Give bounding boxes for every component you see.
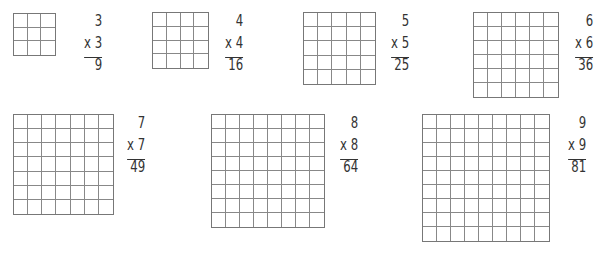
grid-cell bbox=[28, 115, 42, 129]
grid-cell bbox=[56, 129, 70, 143]
grid-cell bbox=[502, 69, 516, 83]
grid-cell bbox=[42, 200, 56, 214]
grid-cell bbox=[465, 185, 479, 199]
grid-cell bbox=[296, 115, 310, 129]
grid-cell bbox=[437, 115, 451, 129]
grid-cell bbox=[226, 185, 240, 199]
grid-cell bbox=[310, 115, 324, 129]
grid-cell bbox=[451, 157, 465, 171]
grid-cell bbox=[181, 13, 195, 27]
grid-cell bbox=[479, 115, 493, 129]
grid-cell bbox=[479, 227, 493, 241]
grid-cell bbox=[479, 171, 493, 185]
grid-cell bbox=[28, 200, 42, 214]
grid-cell bbox=[521, 199, 535, 213]
grid-cell bbox=[14, 129, 28, 143]
grid-cell bbox=[347, 56, 361, 70]
grid-cell bbox=[268, 185, 282, 199]
grid-cell bbox=[493, 227, 507, 241]
grid-cell bbox=[451, 115, 465, 129]
grid-cell bbox=[535, 213, 549, 227]
grid-cell bbox=[181, 41, 195, 55]
grid-cell bbox=[493, 185, 507, 199]
grid-cell bbox=[282, 129, 296, 143]
grid-cell bbox=[99, 115, 113, 129]
grid-cell bbox=[14, 200, 28, 214]
grid-cell bbox=[502, 41, 516, 55]
grid-cell bbox=[521, 213, 535, 227]
grid-cell bbox=[332, 56, 346, 70]
grid-cell bbox=[181, 27, 195, 41]
grid-cell bbox=[212, 185, 226, 199]
grid-cell bbox=[153, 54, 167, 68]
grid-cell bbox=[14, 14, 28, 28]
grid-cell bbox=[254, 129, 268, 143]
multiplication-problem-3: 3x 39 bbox=[84, 14, 102, 80]
grid-cell bbox=[488, 55, 502, 69]
grid-cell bbox=[226, 213, 240, 227]
grid-cell bbox=[361, 56, 375, 70]
grid-cell bbox=[99, 200, 113, 214]
grid-cell bbox=[56, 200, 70, 214]
grid-cell bbox=[296, 129, 310, 143]
grid-cell bbox=[479, 199, 493, 213]
grid-cell bbox=[488, 41, 502, 55]
grid-cell bbox=[332, 13, 346, 27]
grid-cell bbox=[544, 69, 558, 83]
grid-cell bbox=[268, 157, 282, 171]
grid-cell bbox=[332, 27, 346, 41]
grid-cell bbox=[437, 171, 451, 185]
grid-cell bbox=[28, 14, 42, 28]
grid-cell bbox=[71, 172, 85, 186]
grid-cell bbox=[181, 54, 195, 68]
grid-cell bbox=[99, 172, 113, 186]
grid-cell bbox=[507, 115, 521, 129]
grid-cell bbox=[14, 143, 28, 157]
grid-cell bbox=[304, 13, 318, 27]
square-grid-9x9 bbox=[422, 114, 550, 242]
grid-cell bbox=[254, 213, 268, 227]
grid-cell bbox=[28, 157, 42, 171]
square-grid-8x8 bbox=[211, 114, 325, 228]
grid-cell bbox=[544, 41, 558, 55]
grid-cell bbox=[282, 199, 296, 213]
grid-cell bbox=[167, 13, 181, 27]
grid-cell bbox=[42, 172, 56, 186]
grid-cell bbox=[423, 143, 437, 157]
grid-cell bbox=[268, 213, 282, 227]
product: 9 bbox=[84, 58, 102, 80]
grid-cell bbox=[254, 171, 268, 185]
factor-top: 4 bbox=[225, 14, 243, 36]
grid-cell bbox=[153, 27, 167, 41]
grid-cell bbox=[318, 56, 332, 70]
grid-cell bbox=[14, 157, 28, 171]
square-grid-4x4 bbox=[152, 12, 209, 69]
grid-cell bbox=[507, 157, 521, 171]
grid-cell bbox=[71, 129, 85, 143]
grid-cell bbox=[479, 185, 493, 199]
product: 16 bbox=[225, 58, 243, 80]
grid-cell bbox=[212, 199, 226, 213]
grid-cell bbox=[479, 157, 493, 171]
multiplication-problem-8: 8x 864 bbox=[340, 116, 358, 182]
grid-cell bbox=[226, 115, 240, 129]
grid-cell bbox=[507, 129, 521, 143]
grid-cell bbox=[521, 129, 535, 143]
grid-cell bbox=[240, 157, 254, 171]
grid-cell bbox=[28, 28, 42, 42]
multiplication-problem-5: 5x 525 bbox=[391, 14, 409, 80]
grid-cell bbox=[85, 129, 99, 143]
grid-cell bbox=[347, 13, 361, 27]
grid-cell bbox=[451, 227, 465, 241]
grid-cell bbox=[296, 171, 310, 185]
grid-cell bbox=[516, 13, 530, 27]
grid-cell bbox=[226, 171, 240, 185]
grid-cell bbox=[318, 41, 332, 55]
grid-cell bbox=[423, 115, 437, 129]
grid-cell bbox=[41, 41, 55, 55]
factor-top: 5 bbox=[391, 14, 409, 36]
grid-cell bbox=[167, 27, 181, 41]
grid-cell bbox=[304, 56, 318, 70]
grid-cell bbox=[493, 129, 507, 143]
grid-cell bbox=[332, 70, 346, 84]
